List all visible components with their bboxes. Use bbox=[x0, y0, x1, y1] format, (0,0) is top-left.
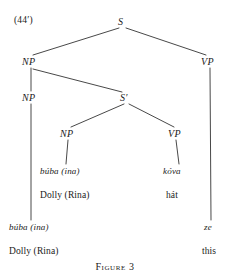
gloss-buba-inner: Dolly (Rina) bbox=[40, 191, 89, 201]
node-label-vp-embedded: VP bbox=[168, 129, 181, 139]
gloss-buba-outer: Dolly (Rina) bbox=[9, 247, 58, 257]
edge-vp-outer-to-terminal bbox=[210, 68, 211, 220]
node-label-vp-outer: VP bbox=[201, 57, 214, 67]
edge-s-to-vp-outer bbox=[126, 28, 206, 55]
figure-caption: Figure 3 bbox=[0, 261, 230, 272]
gloss-ze: this bbox=[202, 247, 216, 257]
node-label-np-inner: NP bbox=[22, 93, 35, 103]
syntax-tree-diagram bbox=[0, 0, 230, 278]
edge-s-to-np-outer bbox=[33, 28, 119, 55]
terminal-word-kova: kóva bbox=[163, 167, 181, 176]
gloss-kova: hát bbox=[166, 191, 178, 201]
edge-np-embedded-to-terminal bbox=[66, 140, 68, 164]
terminal-word-ze: ze bbox=[204, 223, 212, 232]
edge-sbar-to-np-embedded bbox=[71, 104, 124, 127]
node-label-s-root: S bbox=[118, 17, 123, 27]
terminal-word-buba-outer: búba (ina) bbox=[9, 223, 49, 232]
edge-np-outer-to-sbar bbox=[33, 69, 122, 92]
figure-container: (44′) S NP VP NP S′ NP VP búba (ina) kóv… bbox=[0, 0, 230, 278]
edge-sbar-to-vp-embedded bbox=[129, 104, 174, 127]
node-label-np-outer: NP bbox=[22, 57, 35, 67]
edge-vp-embedded-to-terminal bbox=[176, 140, 179, 164]
terminal-word-buba-inner: búba (ina) bbox=[40, 167, 80, 176]
node-label-sbar: S′ bbox=[120, 93, 128, 103]
example-number: (44′) bbox=[14, 16, 33, 26]
node-label-np-embedded: NP bbox=[60, 129, 73, 139]
